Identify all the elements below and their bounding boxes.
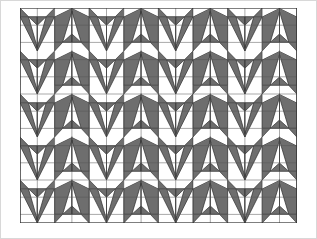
tessellation-canvas — [0, 0, 317, 239]
tessellation-pattern-area — [0, 8, 317, 223]
tessellation-figure: Origami tessellation crease pattern — [0, 0, 317, 239]
